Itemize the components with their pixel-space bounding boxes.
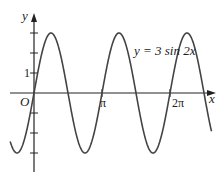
y-axis-arrow-icon bbox=[31, 13, 37, 22]
x-tick-label-pi: π bbox=[100, 96, 106, 110]
y-tick-label-1: 1 bbox=[24, 66, 30, 80]
origin-label: O bbox=[20, 94, 30, 109]
x-tick-label-2pi: 2π bbox=[172, 96, 184, 110]
sine-graph: y x O 1 π 2π y = 3 sin 2x bbox=[0, 0, 221, 180]
x-axis-label: x bbox=[208, 91, 215, 106]
y-axis-label: y bbox=[20, 8, 28, 23]
equation-label: y = 3 sin 2x bbox=[132, 43, 196, 58]
